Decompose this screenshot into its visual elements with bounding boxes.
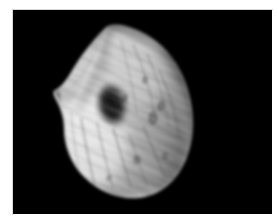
specimen-graphic [13,10,272,214]
specimen-body [13,10,272,214]
scan-canvas [13,10,272,214]
image-frame [0,0,279,224]
striae-overlay-b [13,10,272,214]
specimen-container [13,10,272,214]
